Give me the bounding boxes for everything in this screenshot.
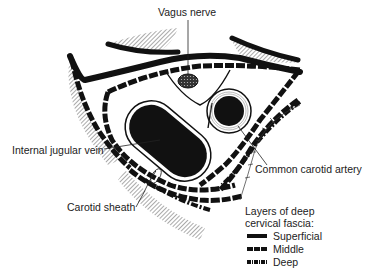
legend-title-line2: cervical fascia: [245, 217, 314, 229]
legend-item-deep: Deep [247, 256, 298, 268]
legend-label: Deep [273, 256, 298, 268]
carotid-sheath-label: Carotid sheath [67, 201, 135, 213]
internal-jugular-vein-label: Internal jugular vein [12, 144, 104, 156]
solid-line-swatch-icon [247, 234, 267, 238]
legend-label: Superficial [273, 230, 322, 242]
dashed-line-swatch-icon [247, 247, 267, 251]
vagus-nerve [178, 74, 198, 88]
legend-label: Middle [273, 243, 304, 255]
legend-item-middle: Middle [247, 243, 304, 255]
legend-item-superficial: Superficial [247, 230, 322, 242]
dash-dot-line-swatch-icon [247, 260, 267, 264]
vagus-nerve-label: Vagus nerve [158, 6, 216, 18]
common-carotid-artery [207, 89, 251, 133]
legend-title-line1: Layers of deep [245, 205, 314, 217]
common-carotid-artery-label: Common carotid artery [255, 163, 362, 175]
